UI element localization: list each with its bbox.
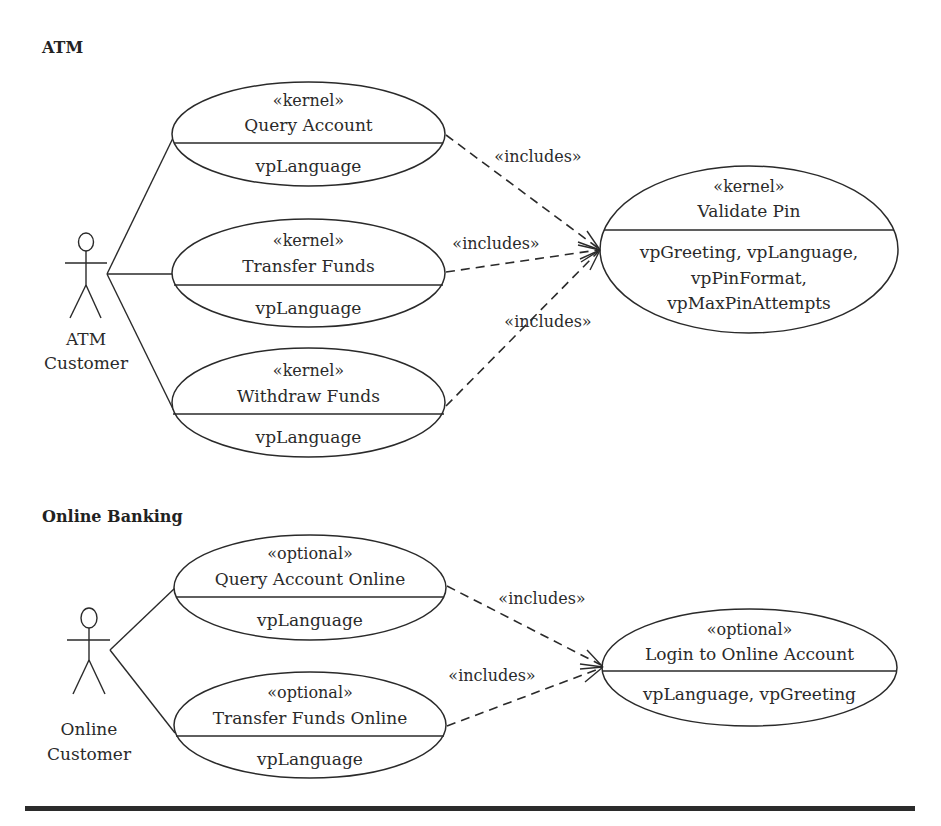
variation-point: vpLanguage: [256, 610, 363, 630]
include-relationship-5: «includes»: [447, 666, 603, 726]
actor-label-line1: Online: [61, 719, 118, 739]
section-atm: ATM ATM Customer «kernel» Query Account: [41, 38, 898, 457]
include-relationship-4: «includes»: [447, 586, 603, 667]
includes-label: «includes»: [448, 666, 535, 685]
stereotype: «kernel»: [273, 231, 344, 250]
actor-label-line2: Customer: [44, 353, 129, 373]
use-case-name: Withdraw Funds: [237, 386, 380, 406]
actor-label-line2: Customer: [47, 744, 132, 764]
stereotype: «kernel»: [273, 91, 344, 110]
include-relationship-3: «includes»: [446, 250, 600, 406]
use-case-withdraw-funds[interactable]: «kernel» Withdraw Funds vpLanguage: [172, 348, 445, 457]
use-case-transfer-funds-online[interactable]: «optional» Transfer Funds Online vpLangu…: [174, 672, 446, 778]
variation-point: vpLanguage: [255, 427, 362, 447]
open-arrowhead-icon: [580, 667, 603, 682]
includes-label: «includes»: [504, 312, 591, 331]
include-relationship-1: «includes»: [446, 135, 600, 250]
actor-online-customer: Online Customer: [47, 608, 132, 764]
use-case-name: Query Account Online: [215, 569, 406, 589]
variation-point: vpGreeting, vpLanguage,: [639, 242, 858, 262]
variation-point: vpLanguage: [256, 749, 363, 769]
stereotype: «optional»: [707, 620, 793, 639]
use-case-name: Transfer Funds: [242, 256, 374, 276]
use-case-name: Login to Online Account: [645, 644, 854, 664]
variation-point: vpLanguage: [255, 298, 362, 318]
includes-label: «includes»: [498, 589, 585, 608]
association-line: [107, 138, 173, 274]
stereotype: «kernel»: [273, 361, 344, 380]
variation-point: vpLanguage, vpGreeting: [642, 684, 856, 704]
includes-label: «includes»: [494, 147, 581, 166]
variation-point: vpLanguage: [255, 156, 362, 176]
includes-label: «includes»: [452, 234, 539, 253]
variation-point: vpMaxPinAttempts: [666, 293, 831, 313]
use-case-transfer-funds[interactable]: «kernel» Transfer Funds vpLanguage: [172, 219, 445, 327]
bottom-rule-divider: [25, 806, 915, 811]
use-case-diagram: ATM ATM Customer «kernel» Query Account: [0, 0, 941, 826]
association-line: [110, 588, 175, 650]
stereotype: «optional»: [267, 683, 353, 702]
section-title-online-banking: Online Banking: [42, 507, 183, 526]
use-case-name: Query Account: [244, 115, 373, 135]
use-case-name: Validate Pin: [697, 201, 801, 221]
use-case-query-account-online[interactable]: «optional» Query Account Online vpLangua…: [174, 535, 446, 640]
use-case-validate-pin[interactable]: «kernel» Validate Pin vpGreeting, vpLang…: [600, 166, 898, 333]
section-online-banking: Online Banking Online Customer «optional…: [42, 507, 897, 778]
include-relationship-2: «includes»: [446, 234, 600, 272]
associations-online: [110, 588, 175, 733]
section-title-atm: ATM: [41, 38, 83, 57]
stick-figure-icon: [65, 233, 107, 318]
association-line: [110, 650, 175, 733]
variation-point: vpPinFormat,: [690, 268, 807, 288]
actor-label-line1: ATM: [65, 329, 106, 349]
stereotype: «optional»: [267, 544, 353, 563]
use-case-query-account[interactable]: «kernel» Query Account vpLanguage: [172, 82, 445, 186]
association-line: [107, 274, 174, 411]
stereotype: «kernel»: [713, 177, 784, 196]
use-case-name: Transfer Funds Online: [213, 708, 408, 728]
stick-figure-icon: [67, 608, 110, 694]
use-case-login-to-online-account[interactable]: «optional» Login to Online Account vpLan…: [602, 609, 897, 726]
